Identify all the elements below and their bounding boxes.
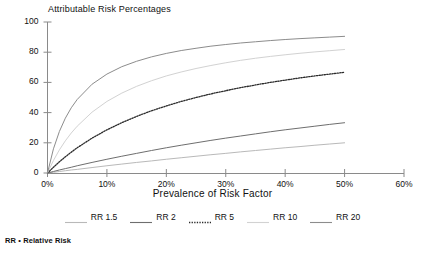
legend-swatch-icon (189, 213, 211, 222)
legend-item-rr-1-5[interactable]: RR 1.5 (65, 212, 117, 222)
legend-label: RR 5 (215, 212, 234, 222)
legend-label: RR 20 (336, 212, 360, 222)
footnote: RR • Relative Risk (5, 236, 71, 245)
y-axis-tick-label: 40 (13, 107, 39, 117)
y-axis-tick-label: 80 (13, 46, 39, 56)
y-axis-tick-label: 60 (13, 76, 39, 86)
chart-legend: RR 1.5RR 2RR 5RR 10RR 20 (0, 212, 425, 222)
y-axis-tick-label: 20 (13, 137, 39, 147)
x-axis-title: Prevalence of Risk Factor (0, 188, 425, 199)
legend-item-rr-2[interactable]: RR 2 (130, 212, 175, 222)
data-curves (48, 36, 345, 173)
legend-swatch-icon (310, 213, 332, 222)
legend-swatch-icon (130, 213, 152, 222)
y-axis-tick-label: 100 (13, 16, 39, 26)
chart-figure: Attributable Risk Percentages 1008060402… (0, 0, 425, 253)
curve-rr-5 (48, 72, 345, 173)
curve-rr-10 (48, 49, 345, 173)
legend-label: RR 2 (156, 212, 175, 222)
curve-rr-2 (48, 123, 345, 173)
legend-item-rr-5[interactable]: RR 5 (189, 212, 234, 222)
legend-label: RR 10 (273, 212, 297, 222)
curve-rr-20 (48, 36, 345, 173)
legend-item-rr-20[interactable]: RR 20 (310, 212, 360, 222)
legend-swatch-icon (65, 213, 87, 222)
legend-label: RR 1.5 (91, 212, 117, 222)
y-axis-tick-label: 0 (13, 167, 39, 177)
legend-swatch-icon (247, 213, 269, 222)
curve-rr-1-5 (48, 143, 345, 173)
legend-item-rr-10[interactable]: RR 10 (247, 212, 297, 222)
plot-area (0, 0, 425, 200)
